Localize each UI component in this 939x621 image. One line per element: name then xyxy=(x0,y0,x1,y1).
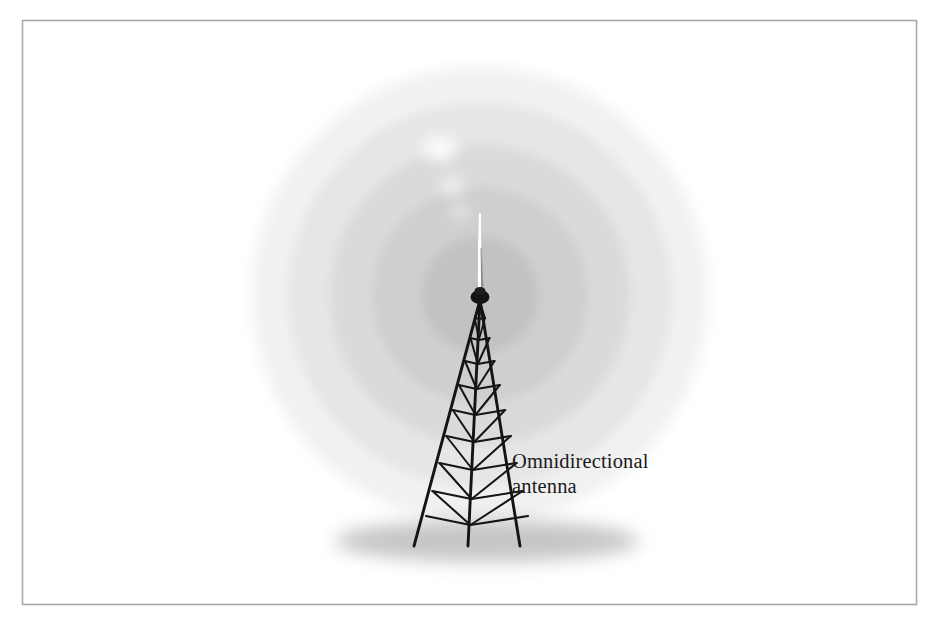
specular-highlight-lower xyxy=(452,206,468,218)
ground-shadow-ellipse xyxy=(335,520,639,562)
mast-mounting-collar xyxy=(475,287,486,295)
specular-highlight-upper xyxy=(423,135,457,161)
specular-highlight-mid xyxy=(441,177,463,195)
figure-root: Omnidirectional antenna xyxy=(0,0,939,621)
antenna-diagram-svg: Omnidirectional antenna xyxy=(0,0,939,621)
callout-label-line1: Omnidirectional xyxy=(512,450,649,472)
callout-label-line2: antenna xyxy=(512,475,577,497)
